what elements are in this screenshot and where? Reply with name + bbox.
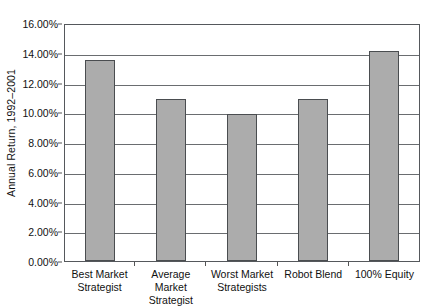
bar-slot bbox=[348, 25, 419, 261]
bar-100-percent-equity bbox=[369, 51, 399, 261]
y-tick-label-0: 0.00% bbox=[28, 256, 58, 268]
bar-slot bbox=[65, 25, 136, 261]
plot-area bbox=[64, 24, 420, 262]
bar-average-market-strategist bbox=[156, 99, 186, 261]
y-tick-label-10: 10.00% bbox=[22, 107, 58, 119]
x-axis-labels: Best Market Strategist Average Market St… bbox=[64, 268, 420, 307]
bar-best-market-strategist bbox=[85, 60, 115, 261]
y-tick-mark-2 bbox=[58, 232, 62, 233]
y-tick-mark-6 bbox=[58, 172, 62, 173]
x-tick-cell bbox=[278, 262, 349, 267]
x-axis-ticks bbox=[64, 262, 420, 267]
y-tick-mark-16 bbox=[58, 24, 62, 25]
x-label-line2: Strategist bbox=[136, 294, 205, 307]
x-tick-cell bbox=[64, 262, 135, 267]
y-tick-label-16: 16.00% bbox=[22, 18, 58, 30]
x-label-robot-blend: Robot Blend bbox=[278, 268, 349, 307]
y-tick-label-14: 14.00% bbox=[22, 48, 58, 60]
x-label-line2: Strategists bbox=[207, 281, 276, 294]
y-tick-label-4: 4.00% bbox=[28, 197, 58, 209]
y-tick-label-6: 6.00% bbox=[28, 167, 58, 179]
y-tick-mark-10 bbox=[58, 113, 62, 114]
y-axis-title-text: Annual Return, 1992–2001 bbox=[5, 69, 17, 197]
x-label-line1: Best Market bbox=[72, 268, 128, 280]
bar-slot bbox=[136, 25, 207, 261]
x-label-average-market-strategist: Average Market Strategist bbox=[135, 268, 206, 307]
bar-slot bbox=[277, 25, 348, 261]
x-label-line1: Average Market bbox=[151, 268, 190, 293]
y-tick-label-8: 8.00% bbox=[28, 137, 58, 149]
x-tick-cell bbox=[135, 262, 206, 267]
bar-slot bbox=[207, 25, 278, 261]
x-label-best-market-strategist: Best Market Strategist bbox=[64, 268, 135, 307]
x-label-line2: Strategist bbox=[65, 281, 134, 294]
bars-layer bbox=[65, 25, 419, 261]
y-tick-mark-14 bbox=[58, 53, 62, 54]
x-label-100-percent-equity: 100% Equity bbox=[349, 268, 420, 307]
y-axis-title: Annual Return, 1992–2001 bbox=[0, 0, 22, 265]
y-tick-mark-0 bbox=[58, 262, 62, 263]
x-label-worst-market-strategists: Worst Market Strategists bbox=[206, 268, 277, 307]
bar-robot-blend bbox=[298, 99, 328, 261]
x-label-line1: 100% Equity bbox=[355, 268, 414, 280]
x-tick-cell bbox=[206, 262, 277, 267]
y-tick-mark-12 bbox=[58, 83, 62, 84]
x-tick-cell bbox=[349, 262, 420, 267]
x-label-line1: Robot Blend bbox=[284, 268, 342, 280]
y-tick-label-12: 12.00% bbox=[22, 78, 58, 90]
y-tick-label-2: 2.00% bbox=[28, 226, 58, 238]
x-label-line1: Worst Market bbox=[211, 268, 273, 280]
y-tick-mark-8 bbox=[58, 143, 62, 144]
y-axis-tick-labels: 16.00% 14.00% 12.00% 10.00% 8.00% 6.00% … bbox=[20, 0, 62, 299]
bar-worst-market-strategists bbox=[227, 114, 257, 262]
y-tick-mark-4 bbox=[58, 202, 62, 203]
